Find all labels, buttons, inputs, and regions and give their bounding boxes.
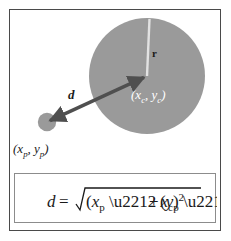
formula-lhs: d <box>47 192 56 211</box>
formula-box: d = (xp \u2212 xc)2 + (yp \u2212 yc)2 <box>14 173 216 223</box>
point-marker <box>38 113 56 131</box>
diagram-canvas: (xc, yc) (xp, yp) d r d = (xp \u2212 xc)… <box>0 0 231 241</box>
formula-graphic: d = (xp \u2212 xc)2 + (yp \u2212 yc)2 <box>15 174 217 224</box>
radius-label: r <box>152 48 157 59</box>
center-coordinate-label: (xc, yc) <box>131 88 166 104</box>
formula-plus: + <box>149 192 159 211</box>
point-coordinate-label: (xp, yp) <box>13 142 49 158</box>
distance-label: d <box>68 88 75 101</box>
formula-equals: = <box>59 192 69 211</box>
formula-term-right: (yp \u2212 yc)2 <box>160 191 217 213</box>
